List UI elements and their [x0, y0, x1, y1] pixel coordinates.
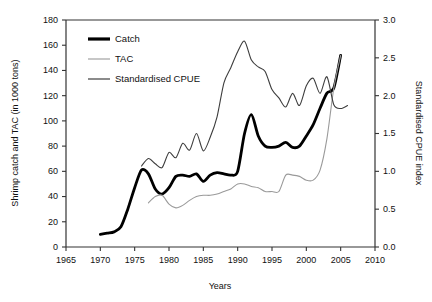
right-tick-label: 3.0 [383, 15, 396, 25]
y2-axis-title: Standardised CPUE index [414, 81, 424, 186]
x-tick-label: 2010 [365, 255, 385, 265]
legend-label-cpue: Standardised CPUE [115, 73, 200, 84]
left-tick-label: 100 [43, 116, 58, 126]
left-tick-label: 0 [53, 242, 58, 252]
right-tick-label: 0.5 [383, 204, 396, 214]
left-tick-label: 20 [48, 217, 58, 227]
left-tick-label: 40 [48, 191, 58, 201]
legend-label-tac: TAC [115, 53, 133, 64]
x-axis-title: Years [209, 281, 232, 291]
x-tick-label: 1980 [159, 255, 179, 265]
x-tick-label: 1995 [262, 255, 282, 265]
chart-figure: 020406080100120140160180 0.00.51.01.52.0… [0, 0, 432, 302]
right-tick-label: 2.5 [383, 53, 396, 63]
right-tick-label: 2.0 [383, 91, 396, 101]
left-tick-label: 120 [43, 91, 58, 101]
y-axis-title: Shrimp catch and TAC (in 1000 tons) [10, 59, 20, 206]
left-tick-label: 160 [43, 40, 58, 50]
left-tick-label: 180 [43, 15, 58, 25]
x-tick-label: 1990 [228, 255, 248, 265]
right-tick-label: 1.0 [383, 166, 396, 176]
x-tick-label: 2005 [331, 255, 351, 265]
left-tick-label: 140 [43, 65, 58, 75]
x-tick-label: 1970 [90, 255, 110, 265]
x-tick-label: 2000 [296, 255, 316, 265]
right-tick-label: 0.0 [383, 242, 396, 252]
left-tick-label: 60 [48, 166, 58, 176]
x-tick-label: 1965 [56, 255, 76, 265]
left-tick-label: 80 [48, 141, 58, 151]
legend-label-catch: Catch [115, 33, 140, 44]
x-tick-label: 1975 [125, 255, 145, 265]
right-tick-label: 1.5 [383, 128, 396, 138]
x-tick-label: 1985 [193, 255, 213, 265]
